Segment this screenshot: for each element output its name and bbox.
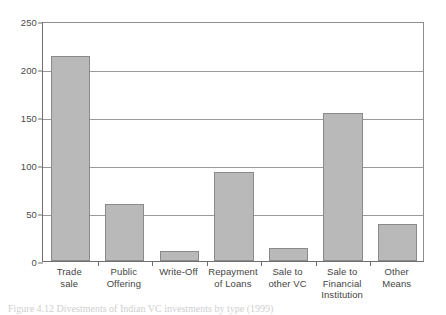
x-axis-label-line: Financial	[315, 278, 370, 290]
x-axis-label-line: sale	[42, 278, 97, 290]
x-axis-label: Tradesale	[42, 266, 97, 289]
bar-series	[43, 23, 423, 261]
y-axis-tick	[38, 263, 43, 264]
x-axis-label-line: of Loans	[206, 278, 261, 290]
bar-slot	[316, 23, 371, 261]
y-axis-tick-label: 150	[21, 114, 37, 124]
x-axis-label-line: Trade	[42, 266, 97, 278]
x-axis-label-line: Other Means	[369, 266, 424, 289]
bar-slot	[207, 23, 262, 261]
x-axis-label: Sale toFinancialInstitution	[315, 266, 370, 301]
x-axis-label: Write-Off	[151, 266, 206, 278]
x-axis-label: PublicOffering	[97, 266, 152, 289]
x-axis-label-line: other VC	[260, 278, 315, 290]
bar-slot	[261, 23, 316, 261]
y-axis-tick-label: 250	[21, 18, 37, 28]
x-axis-label-line: Offering	[97, 278, 152, 290]
y-axis-tick-label: 0	[32, 258, 37, 268]
bar[interactable]	[214, 172, 253, 261]
x-axis-label: Other Means	[369, 266, 424, 289]
x-axis-label-line: Institution	[315, 289, 370, 301]
x-axis-labels: TradesalePublicOfferingWrite-OffRepaymen…	[42, 266, 424, 308]
bar[interactable]	[269, 248, 308, 261]
x-axis-label-line: Public	[97, 266, 152, 278]
x-axis-label-line: Repayment	[206, 266, 261, 278]
bar[interactable]	[51, 56, 90, 261]
figure-caption: Figure 4.12 Divestments of Indian VC inv…	[8, 303, 438, 315]
x-axis-label-line: Sale to	[315, 266, 370, 278]
bar-slot	[43, 23, 98, 261]
bar[interactable]	[105, 204, 144, 261]
chart-plot-area: 050100150200250	[42, 22, 424, 262]
bar-slot	[370, 23, 425, 261]
x-axis-label: Repaymentof Loans	[206, 266, 261, 289]
bar[interactable]	[160, 251, 199, 261]
y-axis-tick-label: 200	[21, 66, 37, 76]
x-axis-label-line: Write-Off	[151, 266, 206, 278]
x-axis-label-line: Sale to	[260, 266, 315, 278]
bar-slot	[152, 23, 207, 261]
y-axis-tick-label: 50	[26, 210, 37, 220]
bar-slot	[98, 23, 153, 261]
bar[interactable]	[378, 224, 417, 261]
x-axis-label: Sale toother VC	[260, 266, 315, 289]
y-axis-tick-label: 100	[21, 162, 37, 172]
bar[interactable]	[323, 113, 362, 261]
